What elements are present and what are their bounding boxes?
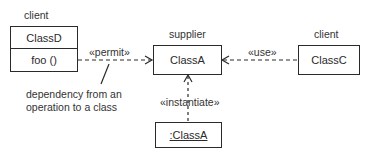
instance-classA-name: :ClassA xyxy=(156,123,221,147)
instantiate-stereotype: «instantiate» xyxy=(160,96,220,108)
classC-name: ClassC xyxy=(299,46,359,74)
classD-operation-foo: foo () xyxy=(11,49,77,71)
permit-stereotype: «permit» xyxy=(89,46,130,58)
use-stereotype: «use» xyxy=(248,46,277,58)
classD-name: ClassD xyxy=(11,27,77,49)
instance-classA-box[interactable]: :ClassA xyxy=(155,122,222,148)
classA-box[interactable]: ClassA xyxy=(153,45,222,75)
classD-box[interactable]: ClassD foo () xyxy=(10,26,78,72)
note-line-2: operation to a class xyxy=(26,101,122,114)
note-line-1: dependency from an xyxy=(26,88,122,101)
dependency-note: dependency from an operation to a class xyxy=(26,88,122,114)
classA-name: ClassA xyxy=(154,46,221,74)
classA-role-label: supplier xyxy=(169,28,206,40)
classC-box[interactable]: ClassC xyxy=(298,45,360,75)
classD-role-label: client xyxy=(24,9,49,21)
note-leader-line xyxy=(101,64,109,84)
classC-role-label: client xyxy=(314,28,339,40)
